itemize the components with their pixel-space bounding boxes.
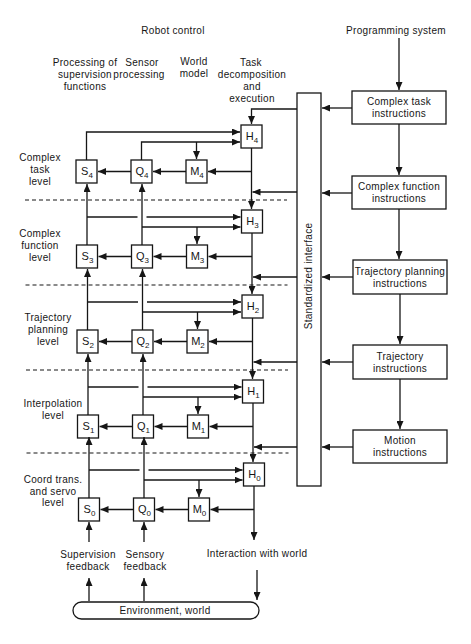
svg-text:level: level xyxy=(42,497,64,508)
supervision-feedback-label: Supervision feedback xyxy=(60,549,116,572)
svg-text:Complex: Complex xyxy=(19,152,61,163)
robot-control-architecture-diagram: Robot control Programming system Process… xyxy=(0,0,471,644)
standardized-interface-label: Standardized interface xyxy=(303,223,314,330)
svg-text:Task: Task xyxy=(240,57,262,68)
trajectory-planning-instructions-box: Trajectory planning instructions xyxy=(353,260,447,294)
s-to-h-arrow xyxy=(87,132,241,160)
svg-text:Trajectory: Trajectory xyxy=(376,351,423,362)
svg-text:Sensor: Sensor xyxy=(125,57,159,68)
svg-text:instructions: instructions xyxy=(373,278,427,289)
svg-text:level: level xyxy=(42,410,64,421)
svg-text:feedback: feedback xyxy=(124,561,168,572)
svg-text:Coord trans.: Coord trans. xyxy=(24,474,83,485)
svg-text:instructions: instructions xyxy=(373,447,427,458)
svg-text:Environment, world: Environment, world xyxy=(120,605,211,616)
complex-function-instructions-box: Complex function instructions xyxy=(352,176,446,209)
svg-text:Trajectory planning: Trajectory planning xyxy=(355,266,445,277)
svg-text:level: level xyxy=(29,252,51,263)
motion-instructions-box: Motion instructions xyxy=(353,430,447,463)
svg-text:functions: functions xyxy=(64,81,107,92)
q-to-h-arrow xyxy=(142,142,241,160)
svg-text:Sensory: Sensory xyxy=(126,549,165,560)
column-header-task: Task decomposition and execution xyxy=(218,57,286,104)
interface-to-h4-arrow xyxy=(252,109,298,124)
level-label-trajectory-planning: Trajectory planning level xyxy=(24,312,71,347)
environment-world-box: Environment, world xyxy=(73,602,259,619)
svg-text:Complex: Complex xyxy=(19,228,61,239)
svg-text:Trajectory: Trajectory xyxy=(24,312,71,323)
svg-text:World: World xyxy=(180,56,207,67)
level-4-group: S4 Q4 M4 H4 xyxy=(25,125,297,209)
svg-text:Complex function: Complex function xyxy=(358,181,440,192)
svg-text:processing: processing xyxy=(113,69,164,80)
sensory-feedback-label: Sensory feedback xyxy=(124,549,168,572)
level-label-interpolation: Interpolation level xyxy=(24,398,83,421)
title-robot-control: Robot control xyxy=(141,25,204,36)
svg-text:feedback: feedback xyxy=(67,561,111,572)
svg-text:function: function xyxy=(21,240,58,251)
svg-text:execution: execution xyxy=(229,93,275,104)
svg-text:and servo: and servo xyxy=(30,486,77,497)
svg-text:model: model xyxy=(180,68,209,79)
svg-text:Motion: Motion xyxy=(384,435,416,446)
svg-text:level: level xyxy=(29,176,51,187)
svg-text:Supervision: Supervision xyxy=(60,549,116,560)
svg-text:instructions: instructions xyxy=(372,193,426,204)
svg-text:task: task xyxy=(30,164,50,175)
column-header-sensor: Sensor processing xyxy=(113,57,164,80)
svg-text:Complex task: Complex task xyxy=(367,96,432,107)
svg-text:Processing of: Processing of xyxy=(53,57,118,68)
svg-text:supervision: supervision xyxy=(58,69,112,80)
column-header-supervision: Processing of supervision functions xyxy=(53,57,118,92)
level-label-coord-trans-servo: Coord trans. and servo level xyxy=(24,474,83,508)
level-label-complex-task: Complex task level xyxy=(19,152,61,187)
complex-task-instructions-box: Complex task instructions xyxy=(352,91,446,124)
column-header-world-model: World model xyxy=(180,56,209,79)
svg-text:Interpolation: Interpolation xyxy=(24,398,83,409)
svg-text:decomposition: decomposition xyxy=(218,69,286,80)
svg-text:level: level xyxy=(37,336,59,347)
svg-text:instructions: instructions xyxy=(372,108,426,119)
trajectory-instructions-box: Trajectory instructions xyxy=(353,345,447,379)
interaction-with-world-label: Interaction with world xyxy=(207,548,308,559)
svg-text:and: and xyxy=(243,81,261,92)
title-programming-system: Programming system xyxy=(346,25,446,36)
svg-text:planning: planning xyxy=(28,324,68,335)
level-label-complex-function: Complex function level xyxy=(19,228,61,263)
svg-text:instructions: instructions xyxy=(373,363,427,374)
